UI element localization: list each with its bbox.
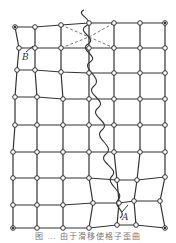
arrow-a bbox=[122, 205, 128, 212]
lattice-diagram: B A bbox=[0, 0, 176, 243]
figure-caption: 图 … 由于滑移使格子歪曲 bbox=[0, 230, 176, 241]
slip-wave-line bbox=[81, 10, 122, 218]
label-a: A bbox=[121, 212, 129, 222]
label-b: B bbox=[21, 52, 29, 62]
